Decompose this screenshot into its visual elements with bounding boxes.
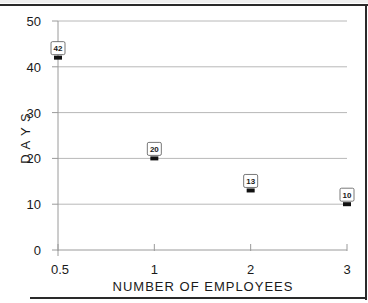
y-tick-label: 0 <box>34 243 41 258</box>
data-point: 13 <box>244 174 258 192</box>
x-axis-title: NUMBER OF EMPLOYEES <box>113 279 294 294</box>
data-point: 42 <box>51 42 65 60</box>
marker <box>343 202 351 206</box>
data-label: 13 <box>246 177 255 186</box>
marker <box>150 156 158 160</box>
y-axis-title: D A Y S <box>18 112 33 163</box>
marker <box>54 56 62 60</box>
y-tick-label: 50 <box>27 14 41 29</box>
x-tick-label: 1 <box>151 262 158 277</box>
x-tick-label: 0.5 <box>51 262 69 277</box>
axes <box>58 21 347 256</box>
gridlines <box>52 21 347 250</box>
marker <box>247 188 255 192</box>
data-label: 42 <box>54 44 63 53</box>
data-point: 10 <box>340 188 354 206</box>
x-axis-tick-labels: 0.5123 <box>51 244 351 277</box>
data-point: 20 <box>147 142 161 160</box>
data-label: 20 <box>150 145 159 154</box>
scatter-chart: 01020304050 0.5123 42201310 D A Y S NUMB… <box>0 0 368 303</box>
data-label: 10 <box>343 191 352 200</box>
x-tick-label: 3 <box>343 262 350 277</box>
y-tick-label: 10 <box>27 197 41 212</box>
x-tick-label: 2 <box>247 262 254 277</box>
y-tick-label: 40 <box>27 60 41 75</box>
